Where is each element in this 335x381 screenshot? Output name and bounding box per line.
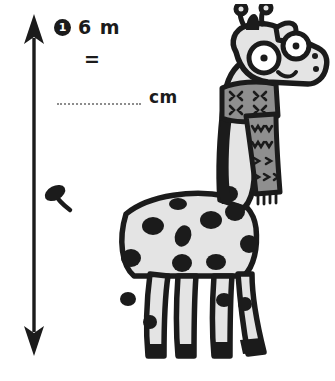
worksheet-page: 1 6 m = cm xyxy=(0,0,335,381)
giraffe-tail-tuft xyxy=(42,182,68,205)
giraffe-leg-front-left xyxy=(147,274,168,356)
giraffe-illustration xyxy=(30,4,335,374)
giraffe-nostril-upper xyxy=(312,53,318,59)
giraffe-nostril-lower xyxy=(313,66,319,72)
giraffe-forelock xyxy=(246,14,259,30)
giraffe-pupil-right xyxy=(293,43,300,50)
giraffe-pupil-left xyxy=(260,54,267,61)
